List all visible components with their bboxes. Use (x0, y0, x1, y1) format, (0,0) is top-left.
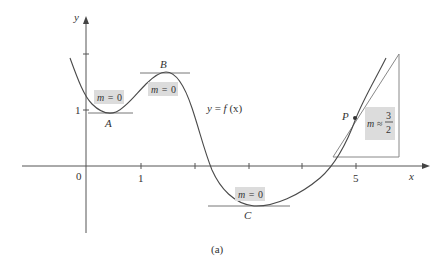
slope-m-p: m (367, 118, 374, 129)
y-axis-arrow-icon (83, 16, 89, 24)
x-tick-label-5: 5 (353, 172, 359, 184)
slope-eq-c: = (249, 189, 255, 200)
slope-m-a: m (97, 92, 104, 103)
x-axis-label: x (408, 170, 414, 182)
slope-numerator-p: 3 (386, 110, 391, 121)
function-curve (70, 58, 386, 206)
slope-label-b: m = 0 (148, 82, 178, 96)
svg-text:m = 0: m = 0 (151, 84, 176, 95)
point-c-label: C (244, 209, 252, 221)
svg-text:m = 0: m = 0 (97, 92, 122, 103)
function-label: y = f (x) (206, 102, 243, 115)
slope-eq-a: = (108, 92, 114, 103)
x-tick-label-1: 1 (138, 172, 144, 184)
slope-denominator-p: 2 (386, 124, 391, 135)
x-axis-arrow-icon (422, 163, 430, 169)
slope-approx-p: ≈ (377, 118, 383, 129)
origin-label: 0 (76, 170, 82, 182)
slope-m-b: m (151, 84, 158, 95)
slope-val-b: 0 (171, 84, 176, 95)
slope-label-p: m ≈ 3 2 (365, 107, 395, 140)
point-a-label: A (104, 117, 112, 129)
slope-label-a: m = 0 (94, 90, 124, 104)
derivative-diagram: y x 0 1 5 1 A B C P m = 0 m = 0 m (0, 0, 435, 257)
slope-val-a: 0 (117, 92, 122, 103)
point-b-label: B (160, 58, 167, 70)
slope-eq-b: = (162, 84, 168, 95)
slope-triangle (333, 54, 399, 157)
y-axis-label: y (73, 11, 79, 23)
point-p-label: P (341, 110, 349, 122)
y-tick-label-1: 1 (75, 104, 81, 116)
svg-text:m = 0: m = 0 (238, 189, 263, 200)
figure-caption: (a) (211, 243, 224, 256)
slope-label-c: m = 0 (235, 187, 265, 201)
point-p-marker (353, 116, 357, 120)
slope-val-c: 0 (258, 189, 263, 200)
slope-m-c: m (238, 189, 245, 200)
